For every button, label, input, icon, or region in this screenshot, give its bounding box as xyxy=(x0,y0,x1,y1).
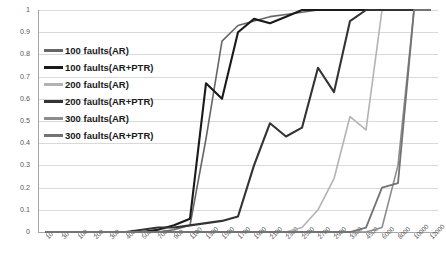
legend-swatch-icon xyxy=(44,83,63,86)
grid-line xyxy=(38,188,438,189)
y-axis-tick-label: 0 xyxy=(0,228,30,235)
legend-swatch-icon xyxy=(44,100,63,103)
y-axis-tick-labels: 00.10.20.30.40.50.60.70.80.91 xyxy=(0,0,36,264)
y-axis-tick-label: 0.8 xyxy=(0,50,30,57)
legend-item-label: 300 faults(AR) xyxy=(65,114,129,124)
y-axis-tick-label: 0.5 xyxy=(0,117,30,124)
legend-swatch-icon xyxy=(44,49,63,52)
legend-item-label: 100 faults(AR) xyxy=(65,46,129,56)
y-axis-tick-label: 0.7 xyxy=(0,73,30,80)
grid-line xyxy=(38,165,438,166)
y-axis-tick-label: 0.6 xyxy=(0,95,30,102)
y-axis-tick-label: 0.4 xyxy=(0,139,30,146)
legend-item[interactable]: 100 faults(AR+PTR) xyxy=(44,59,153,76)
grid-line xyxy=(38,32,438,33)
legend-item[interactable]: 300 faults(AR) xyxy=(44,110,153,127)
legend-item[interactable]: 100 faults(AR) xyxy=(44,42,153,59)
legend-item-label: 100 faults(AR+PTR) xyxy=(65,63,153,73)
line-chart: 00.10.20.30.40.50.60.70.80.91 1030100200… xyxy=(0,0,446,264)
legend-swatch-icon xyxy=(44,134,63,137)
legend-item[interactable]: 200 faults(AR+PTR) xyxy=(44,93,153,110)
chart-legend: 100 faults(AR)100 faults(AR+PTR)200 faul… xyxy=(44,42,153,144)
y-axis-tick-label: 0.9 xyxy=(0,28,30,35)
legend-item-label: 200 faults(AR) xyxy=(65,80,129,90)
legend-item[interactable]: 300 faults(AR+PTR) xyxy=(44,127,153,144)
legend-swatch-icon xyxy=(44,66,63,69)
y-axis-tick-label: 0.2 xyxy=(0,184,30,191)
grid-line xyxy=(38,10,438,11)
legend-item-label: 300 faults(AR+PTR) xyxy=(65,131,153,141)
y-axis-tick-label: 0.1 xyxy=(0,206,30,213)
y-axis-tick-label: 0.3 xyxy=(0,161,30,168)
y-axis-line xyxy=(38,10,39,232)
grid-line xyxy=(38,210,438,211)
legend-swatch-icon xyxy=(44,117,63,120)
legend-item-label: 200 faults(AR+PTR) xyxy=(65,97,153,107)
y-axis-tick-label: 1 xyxy=(0,6,30,13)
legend-item[interactable]: 200 faults(AR) xyxy=(44,76,153,93)
